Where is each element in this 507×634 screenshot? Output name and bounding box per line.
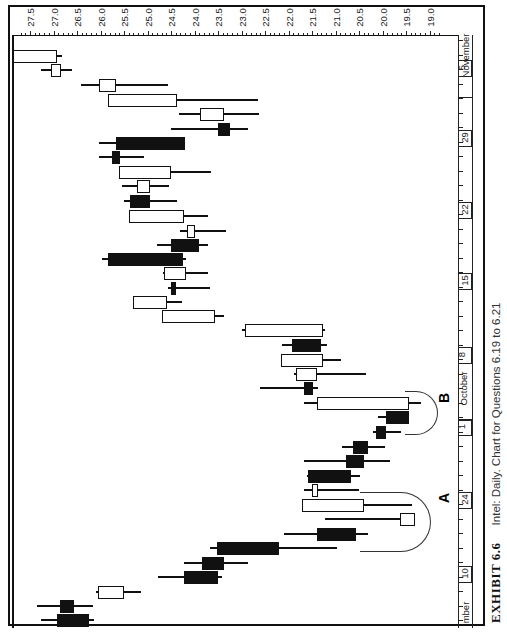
price-tick — [91, 33, 92, 35]
price-tick — [166, 33, 167, 35]
price-tick-label: 27.5 — [25, 6, 36, 30]
price-tick — [101, 31, 102, 35]
price-tick — [415, 33, 416, 35]
candle-body-down — [304, 382, 314, 395]
price-tick — [185, 33, 186, 35]
price-tick-label: 27.0 — [48, 6, 59, 30]
price-tick-label: 25.0 — [142, 6, 153, 30]
price-tick-label: 19.5 — [401, 6, 412, 30]
price-tick — [195, 31, 196, 35]
date-tick — [458, 330, 463, 331]
exhibit-number: EXHIBIT 6.6 — [488, 543, 503, 623]
week-label: 24 — [459, 494, 470, 505]
week-label: 15 — [459, 275, 470, 286]
week-label: 8 — [456, 352, 467, 357]
price-tick — [77, 31, 78, 35]
price-tick-label: 24.0 — [189, 6, 200, 30]
candle-wick — [99, 156, 144, 158]
date-tick — [458, 591, 463, 592]
date-tick — [458, 200, 463, 201]
price-tick — [110, 33, 111, 35]
annotation-circle-a — [360, 492, 431, 552]
price-tick — [21, 33, 22, 35]
candle-body-up — [108, 94, 176, 107]
price-tick — [82, 33, 83, 35]
month-divider — [459, 97, 473, 98]
candle-body-up — [187, 225, 195, 238]
price-tick-label: 23.0 — [236, 6, 247, 30]
price-tick — [148, 31, 149, 35]
price-tick — [336, 31, 337, 35]
price-tick — [190, 33, 191, 35]
price-tick — [199, 33, 200, 35]
price-tick — [242, 31, 243, 35]
price-tick — [293, 33, 294, 35]
price-tick — [246, 33, 247, 35]
candle-body-down — [218, 123, 230, 136]
candle-body-up — [245, 324, 323, 337]
candle-body-down — [130, 195, 150, 208]
figure-caption: EXHIBIT 6.6 Intel: Daily. Chart for Ques… — [486, 0, 506, 634]
candle-body-up — [317, 397, 409, 410]
date-tick — [458, 229, 463, 230]
price-tick-label: 24.5 — [166, 6, 177, 30]
price-tick — [434, 33, 435, 35]
price-tick — [373, 33, 374, 35]
candle-body-down — [112, 151, 120, 164]
price-tick — [35, 33, 36, 35]
price-tick — [232, 33, 233, 35]
price-tick — [256, 33, 257, 35]
price-tick — [401, 33, 402, 35]
price-tick-label: 21.5 — [307, 6, 318, 30]
candle-body-up — [119, 166, 171, 179]
date-tick — [458, 461, 463, 462]
candle-body-up — [133, 296, 166, 309]
week-label: 22 — [459, 204, 470, 215]
candle-body-up — [98, 586, 124, 599]
price-tick — [39, 33, 40, 35]
date-tick — [458, 185, 463, 186]
price-tick — [223, 33, 224, 35]
price-tick — [260, 33, 261, 35]
price-tick — [307, 33, 308, 35]
price-tick-label: 21.0 — [330, 6, 341, 30]
price-tick — [58, 33, 59, 35]
price-tick — [350, 33, 351, 35]
price-tick — [237, 33, 238, 35]
price-tick — [180, 33, 181, 35]
price-tick — [162, 33, 163, 35]
price-tick — [303, 33, 304, 35]
candle-body-up — [13, 50, 57, 63]
price-tick-label: 26.0 — [95, 6, 106, 30]
price-tick — [72, 33, 73, 35]
price-tick — [289, 31, 290, 35]
candle-wick — [81, 84, 168, 86]
price-tick — [176, 33, 177, 35]
candle-body-up — [296, 368, 317, 381]
date-tick — [458, 84, 463, 85]
date-axis — [458, 35, 459, 628]
date-tick — [458, 113, 463, 114]
date-tick — [458, 156, 463, 157]
price-tick — [359, 31, 360, 35]
candle-body-up — [302, 499, 364, 512]
week-label: 1 — [456, 424, 467, 429]
month-divider — [459, 420, 473, 421]
candle-body-up — [137, 180, 150, 193]
price-tick — [321, 33, 322, 35]
candle-body-up — [281, 354, 322, 367]
date-tick — [458, 258, 463, 259]
price-tick — [284, 33, 285, 35]
price-tick — [213, 33, 214, 35]
price-tick — [30, 31, 31, 35]
price-tick — [387, 33, 388, 35]
price-tick — [345, 33, 346, 35]
date-tick — [458, 316, 463, 317]
price-tick — [119, 33, 120, 35]
date-tick — [458, 127, 463, 128]
annotation-label-a: A — [436, 493, 452, 503]
price-tick-label: 22.5 — [260, 6, 271, 30]
price-tick — [124, 31, 125, 35]
date-tick — [458, 98, 463, 99]
price-tick — [96, 33, 97, 35]
